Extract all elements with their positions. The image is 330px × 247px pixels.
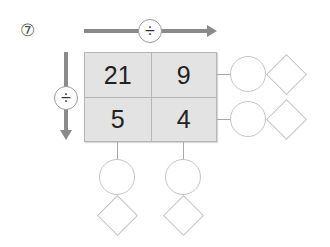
- column-1-answer-diamond[interactable]: [97, 195, 138, 236]
- row-2-answer-circle[interactable]: [230, 101, 266, 137]
- column-2-answer-diamond[interactable]: [163, 195, 204, 236]
- grid-cell: 9: [151, 53, 217, 97]
- problem-number: ⑦: [20, 20, 35, 41]
- row-2-connector: [217, 119, 231, 120]
- row-1-connector: [217, 74, 231, 75]
- grid-cell: 4: [151, 97, 217, 141]
- column-2-connector: [183, 142, 184, 160]
- row-1-answer-circle[interactable]: [230, 56, 266, 92]
- grid-cell: 5: [85, 97, 151, 141]
- arrow-down-icon: [60, 130, 72, 140]
- column-1-connector: [117, 142, 118, 160]
- row-2-answer-diamond[interactable]: [266, 99, 307, 140]
- row-1-answer-diamond[interactable]: [266, 54, 307, 95]
- column-2-answer-circle[interactable]: [165, 159, 201, 195]
- horizontal-divide-operator: ÷: [138, 19, 162, 43]
- arrow-right-icon: [207, 25, 217, 37]
- column-1-answer-circle[interactable]: [99, 159, 135, 195]
- vertical-divide-operator: ÷: [54, 86, 78, 110]
- grid-cell: 21: [85, 53, 151, 97]
- number-grid: 21 9 5 4: [84, 52, 217, 142]
